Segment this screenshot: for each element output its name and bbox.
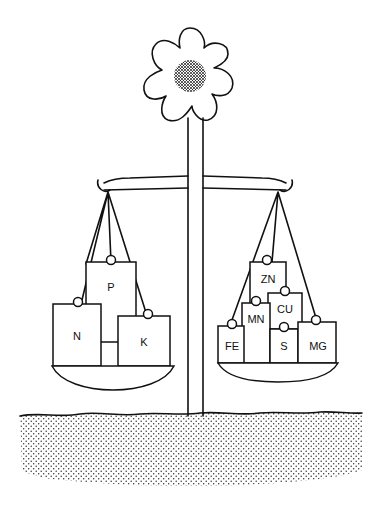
right-pan-dish [218, 363, 338, 382]
block-label-n: N [73, 330, 81, 342]
block-label-k: K [140, 336, 148, 348]
block-mg: MG [298, 316, 336, 364]
flower [144, 28, 233, 121]
block-label-fe: FE [225, 340, 239, 352]
flower-petals-icon [144, 28, 233, 121]
block-s: S [270, 323, 298, 364]
block-label-mg: MG [309, 340, 327, 352]
balance-beam [98, 176, 293, 191]
block-label-p: P [107, 281, 114, 293]
soil-texture [20, 412, 362, 486]
soil [20, 412, 362, 486]
nutrient-balance-illustration: P N K ZN CU MN [0, 0, 375, 524]
flower-center [174, 60, 206, 92]
block-label-cu: CU [277, 303, 293, 315]
left-pan: P N K [52, 256, 174, 391]
left-pan-dish [52, 366, 174, 390]
block-mn: MN [242, 297, 270, 364]
stem [188, 118, 203, 416]
block-label-zn: ZN [261, 273, 276, 285]
block-label-mn: MN [247, 313, 264, 325]
block-fe: FE [218, 320, 244, 364]
block-n: N [53, 298, 101, 367]
right-pan: ZN CU MN S FE MG [218, 256, 338, 383]
block-label-s: S [280, 340, 287, 352]
block-k: K [118, 310, 170, 367]
